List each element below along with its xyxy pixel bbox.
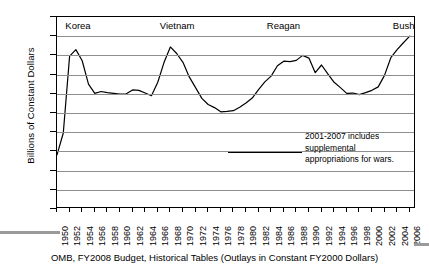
x-tick-label-1958: 1958 — [110, 226, 120, 246]
source-caption: OMB, FY2008 Budget, Historical Tables (O… — [0, 252, 429, 263]
x-tick-label-1998: 1998 — [362, 226, 372, 246]
x-tick-label-1980: 1980 — [248, 226, 258, 246]
scan-artifact-right — [414, 243, 429, 246]
x-tick-label-1972: 1972 — [198, 226, 208, 246]
x-tick-label-1984: 1984 — [274, 226, 284, 246]
annotation-line-1: 2001-2007 includes — [305, 131, 394, 143]
x-tick-label-1954: 1954 — [85, 226, 95, 246]
figure: Billions of Constant Dollars 05010015020… — [0, 0, 429, 270]
gridline-450 — [57, 36, 414, 37]
x-tick-2006 — [409, 208, 410, 212]
x-tick-label-1970: 1970 — [185, 226, 195, 246]
x-tick-1958 — [106, 208, 107, 212]
gridline-300 — [57, 94, 414, 95]
x-tick-label-1960: 1960 — [122, 226, 132, 246]
x-tick-1970 — [182, 208, 183, 212]
x-tick-1994 — [333, 208, 334, 212]
x-tick-1988 — [295, 208, 296, 212]
x-tick-label-1990: 1990 — [311, 226, 321, 246]
x-tick-label-1952: 1952 — [72, 226, 82, 246]
x-tick-label-1992: 1992 — [324, 226, 334, 246]
annotation-line-3: appropriations for wars. — [305, 154, 394, 166]
x-tick-1986 — [283, 208, 284, 212]
x-tick-1968 — [169, 208, 170, 212]
x-tick-1976 — [220, 208, 221, 212]
gridline-250 — [57, 113, 414, 114]
x-tick-1998 — [358, 208, 359, 212]
x-tick-2004 — [396, 208, 397, 212]
x-tick-label-1986: 1986 — [286, 226, 296, 246]
x-tick-label-2004: 2004 — [400, 226, 410, 246]
war-supplemental-annotation: 2001-2007 includes supplemental appropri… — [305, 131, 394, 166]
x-tick-label-1950: 1950 — [60, 226, 70, 246]
x-tick-1960 — [119, 208, 120, 212]
x-tick-label-1978: 1978 — [236, 226, 246, 246]
x-tick-1952 — [69, 208, 70, 212]
gridline-400 — [57, 55, 414, 56]
x-tick-1972 — [195, 208, 196, 212]
x-tick-1992 — [321, 208, 322, 212]
x-tick-label-1996: 1996 — [349, 226, 359, 246]
x-tick-1996 — [346, 208, 347, 212]
x-tick-label-1982: 1982 — [261, 226, 271, 246]
era-label-reagan: Reagan — [267, 20, 300, 31]
x-tick-1966 — [157, 208, 158, 212]
gridline-350 — [57, 75, 414, 76]
annotation-leader-line — [228, 152, 302, 153]
annotation-line-2: supplemental — [305, 143, 394, 155]
x-tick-1964 — [144, 208, 145, 212]
x-tick-label-2002: 2002 — [387, 226, 397, 246]
x-tick-1962 — [132, 208, 133, 212]
x-tick-label-1956: 1956 — [97, 226, 107, 246]
x-tick-1950 — [56, 208, 57, 212]
gridline-100 — [57, 171, 414, 172]
x-tick-label-1974: 1974 — [211, 226, 221, 246]
x-tick-1974 — [207, 208, 208, 212]
x-tick-1982 — [258, 208, 259, 212]
x-tick-1956 — [94, 208, 95, 212]
scan-artifact-left — [0, 231, 60, 234]
era-label-vietnam: Vietnam — [160, 20, 195, 31]
x-tick-label-1968: 1968 — [173, 226, 183, 246]
x-tick-label-1988: 1988 — [299, 226, 309, 246]
plot-area: KoreaVietnamReaganBush — [56, 16, 415, 208]
x-tick-label-1964: 1964 — [148, 226, 158, 246]
era-label-bush: Bush — [393, 20, 415, 31]
x-tick-2002 — [384, 208, 385, 212]
x-tick-label-1966: 1966 — [160, 226, 170, 246]
x-tick-1990 — [308, 208, 309, 212]
x-tick-1984 — [270, 208, 271, 212]
x-tick-1954 — [81, 208, 82, 212]
x-tick-label-1994: 1994 — [337, 226, 347, 246]
y-axis-title: Billions of Constant Dollars — [25, 6, 36, 206]
x-tick-label-2000: 2000 — [374, 226, 384, 246]
era-label-korea: Korea — [65, 20, 90, 31]
x-tick-1978 — [232, 208, 233, 212]
x-tick-1980 — [245, 208, 246, 212]
x-tick-2000 — [371, 208, 372, 212]
gridline-50 — [57, 190, 414, 191]
x-tick-label-1976: 1976 — [223, 226, 233, 246]
x-tick-label-1962: 1962 — [135, 226, 145, 246]
